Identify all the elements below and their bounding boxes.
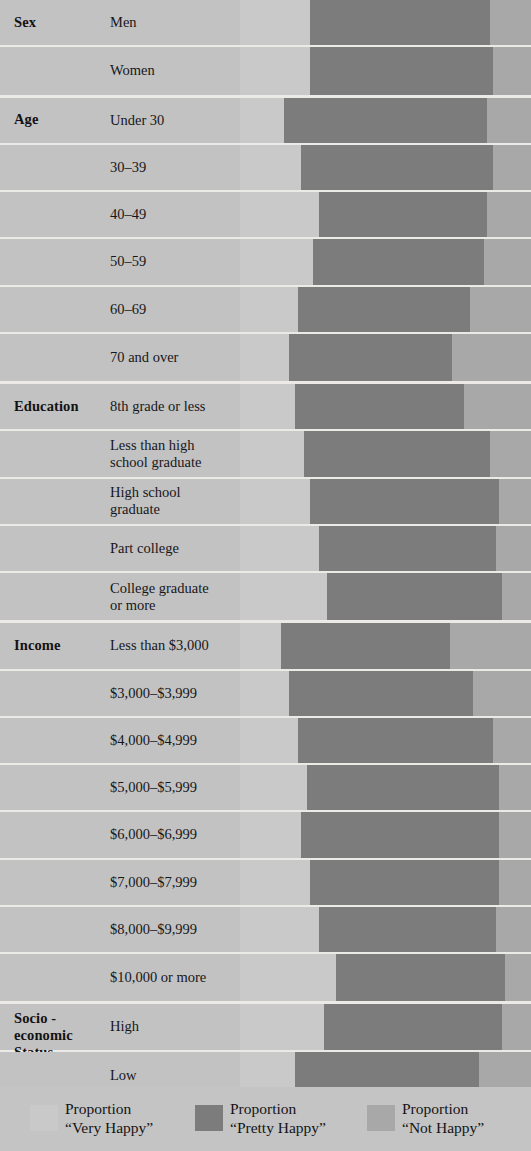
stacked-bar xyxy=(240,765,531,810)
row-label-cell: $7,000–$7,999 xyxy=(0,860,240,905)
chart-row: 50–59 xyxy=(0,239,531,286)
row-label: $10,000 or more xyxy=(100,969,212,986)
row-label: Under 30 xyxy=(100,112,170,129)
chart-row: $3,000–$3,999 xyxy=(0,671,531,718)
segment-very-happy xyxy=(240,47,310,94)
row-label: Men xyxy=(100,14,143,31)
row-label-cell: 40–49 xyxy=(0,192,240,237)
chart-row: Women xyxy=(0,47,531,94)
row-label: Part college xyxy=(100,540,185,557)
segment-pretty-happy xyxy=(284,98,488,143)
legend-label: Proportion “Pretty Happy” xyxy=(230,1100,326,1138)
stacked-bar xyxy=(240,907,531,952)
stacked-bar xyxy=(240,954,531,1001)
stacked-bar xyxy=(240,98,531,143)
segment-pretty-happy xyxy=(289,334,452,381)
segment-pretty-happy xyxy=(298,287,470,332)
chart-row: $5,000–$5,999 xyxy=(0,765,531,812)
row-label-cell: AgeUnder 30 xyxy=(0,98,240,143)
chart-group-age: AgeUnder 3030–3940–4950–5960–6970 and ov… xyxy=(0,98,531,385)
row-label-cell: 30–39 xyxy=(0,145,240,190)
legend-label: Proportion “Very Happy” xyxy=(65,1100,153,1138)
chart-row: High school graduate xyxy=(0,479,531,526)
row-label: Less than $3,000 xyxy=(100,637,215,654)
segment-not-happy xyxy=(493,47,531,94)
segment-very-happy xyxy=(240,671,289,716)
row-label: $6,000–$6,999 xyxy=(100,826,203,843)
segment-pretty-happy xyxy=(327,573,502,620)
chart-row: 30–39 xyxy=(0,145,531,192)
row-label: Less than high school graduate xyxy=(100,437,207,471)
stacked-bar xyxy=(240,860,531,905)
segment-very-happy xyxy=(240,98,284,143)
row-label: $4,000–$4,999 xyxy=(100,732,203,749)
segment-very-happy xyxy=(240,526,319,571)
row-label: 70 and over xyxy=(100,349,184,366)
segment-not-happy xyxy=(473,671,531,716)
chart-group-socio-economic-status: Socio - economic StatusHighLow xyxy=(0,1004,531,1099)
segment-very-happy xyxy=(240,192,319,237)
segment-not-happy xyxy=(490,431,531,476)
row-label: High school graduate xyxy=(100,484,186,518)
segment-pretty-happy xyxy=(304,431,490,476)
row-label-cell: College graduate or more xyxy=(0,573,240,620)
not-happy-swatch xyxy=(367,1105,395,1131)
row-label-cell: High school graduate xyxy=(0,479,240,524)
stacked-bar xyxy=(240,0,531,45)
row-label-cell: Part college xyxy=(0,526,240,571)
chart-row: 40–49 xyxy=(0,192,531,239)
segment-very-happy xyxy=(240,239,313,284)
chart-row: SexMen xyxy=(0,0,531,47)
legend-item: Proportion “Pretty Happy” xyxy=(195,1100,355,1138)
segment-pretty-happy xyxy=(310,0,490,45)
segment-pretty-happy xyxy=(319,526,497,571)
chart-row: 60–69 xyxy=(0,287,531,334)
row-label-cell: $10,000 or more xyxy=(0,954,240,1001)
segment-not-happy xyxy=(487,192,531,237)
segment-very-happy xyxy=(240,860,310,905)
segment-very-happy xyxy=(240,623,281,668)
stacked-bar xyxy=(240,287,531,332)
chart-row: $4,000–$4,999 xyxy=(0,718,531,765)
segment-not-happy xyxy=(470,287,531,332)
segment-pretty-happy xyxy=(298,718,493,763)
segment-very-happy xyxy=(240,1004,324,1049)
segment-pretty-happy xyxy=(307,765,499,810)
legend-label: Proportion “Not Happy” xyxy=(402,1100,484,1138)
row-label: 50–59 xyxy=(100,253,152,270)
segment-very-happy xyxy=(240,0,310,45)
row-label-cell: Less than high school graduate xyxy=(0,431,240,476)
stacked-bar xyxy=(240,573,531,620)
segment-very-happy xyxy=(240,907,319,952)
legend-item: Proportion “Very Happy” xyxy=(30,1100,195,1138)
chart-row: $8,000–$9,999 xyxy=(0,907,531,954)
segment-not-happy xyxy=(499,479,531,524)
stacked-bar xyxy=(240,812,531,857)
stacked-bar xyxy=(240,47,531,94)
segment-very-happy xyxy=(240,812,301,857)
chart-row: $7,000–$7,999 xyxy=(0,860,531,907)
chart-row: $6,000–$6,999 xyxy=(0,812,531,859)
row-label-cell: $4,000–$4,999 xyxy=(0,718,240,763)
stacked-bar xyxy=(240,384,531,429)
row-label: 8th grade or less xyxy=(100,398,211,415)
row-label-cell: Women xyxy=(0,47,240,94)
segment-pretty-happy xyxy=(310,47,493,94)
segment-pretty-happy xyxy=(319,192,488,237)
chart-row: Less than high school graduate xyxy=(0,431,531,478)
segment-not-happy xyxy=(499,860,531,905)
row-label: $8,000–$9,999 xyxy=(100,921,203,938)
very-happy-swatch xyxy=(30,1105,58,1131)
segment-not-happy xyxy=(484,239,531,284)
segment-pretty-happy xyxy=(281,623,450,668)
segment-pretty-happy xyxy=(310,860,499,905)
segment-very-happy xyxy=(240,954,336,1001)
segment-not-happy xyxy=(487,98,531,143)
segment-not-happy xyxy=(464,384,531,429)
row-label: 30–39 xyxy=(100,159,152,176)
segment-not-happy xyxy=(452,334,531,381)
segment-not-happy xyxy=(505,954,531,1001)
segment-very-happy xyxy=(240,287,298,332)
group-label: Age xyxy=(0,112,100,129)
row-label: Low xyxy=(100,1067,143,1084)
